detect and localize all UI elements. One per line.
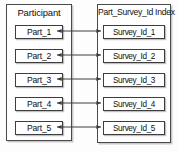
er-mapping-diagram: Participant Part_1 Part_2 Part_3 Part_4 … <box>0 0 178 153</box>
participant-item-5: Part_5 <box>15 121 63 135</box>
participant-item-2: Part_2 <box>15 49 63 63</box>
survey-id-item-5: Survey_Id_5 <box>103 121 165 135</box>
survey-id-item-1: Survey_Id_1 <box>103 25 165 39</box>
participant-panel-title: Participant <box>7 7 71 18</box>
survey-id-item-2: Survey_Id_2 <box>103 49 165 63</box>
participant-item-4: Part_4 <box>15 97 63 111</box>
participant-item-1: Part_1 <box>15 25 63 39</box>
part-survey-id-index-panel: Part_Survey_Id Index Survey_Id_1 Survey_… <box>97 4 171 143</box>
survey-id-item-3: Survey_Id_3 <box>103 73 165 87</box>
survey-id-item-4: Survey_Id_4 <box>103 97 165 111</box>
part-survey-id-index-panel-title: Part_Survey_Id Index <box>98 7 170 18</box>
participant-panel: Participant Part_1 Part_2 Part_3 Part_4 … <box>6 4 72 141</box>
participant-item-3: Part_3 <box>15 73 63 87</box>
